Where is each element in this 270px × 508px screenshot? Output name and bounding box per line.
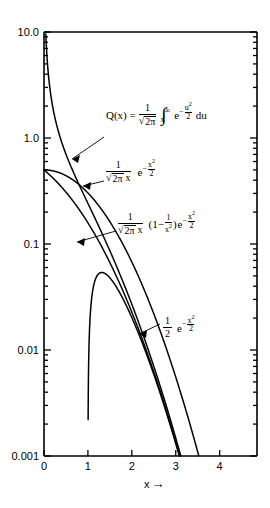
f4-exponent-minus: −: [182, 319, 187, 328]
x-tick-label: 3: [173, 460, 179, 472]
q-exponent: − u2 2: [179, 101, 192, 121]
f3-exponent-num-sup: 2: [192, 210, 195, 216]
q-fraction-numerator: 1: [142, 103, 153, 113]
integral-lower-limit: x: [161, 115, 171, 124]
x-tick-label: 1: [85, 460, 91, 472]
leader-q-definition: [72, 137, 104, 159]
q-differential: du: [196, 109, 207, 121]
f3-exponent-fraction: x2 2: [188, 210, 195, 230]
arrowhead-lower-bound: [77, 238, 85, 246]
chart-figure: 10.01.00.10.010.001 01234 Q(x) = 1 √ 2π: [0, 0, 270, 508]
axes-frame: [44, 32, 257, 456]
f3-exponent-denominator: 2: [190, 222, 194, 230]
y-tick-label: 1.0: [24, 132, 39, 144]
q-fraction: 1 √ 2π: [139, 103, 157, 127]
f2-sqrt-body: 2π: [112, 173, 124, 184]
q-lhs: Q(x) =: [106, 109, 136, 121]
x-tick-label: 4: [217, 460, 223, 472]
f4-fraction-denominator: 2: [165, 329, 170, 339]
y-tick-label: 10.0: [18, 26, 39, 38]
curve-2: [88, 272, 179, 455]
f3-inner-fraction: 1 x2: [165, 214, 172, 234]
f3-inner-numerator: 1: [166, 214, 170, 222]
f4-exponent-numerator: x2: [187, 314, 194, 325]
f3-fraction-denominator: √ 2π x: [118, 225, 143, 236]
f3-inner-den-sup: 2: [169, 223, 172, 229]
f3-exponent-minus: −: [183, 216, 188, 225]
q-exponent-numerator: u2: [185, 101, 192, 112]
y-tick-label: 0.1: [24, 238, 39, 250]
f2-exponent: − x2 2: [142, 158, 155, 178]
integral-upper-limit: ∞: [165, 106, 171, 115]
f4-fraction-numerator: 1: [163, 316, 172, 326]
q-fraction-denominator: √ 2π: [139, 116, 157, 127]
log-plot-svg: 10.01.00.10.010.001 01234: [0, 0, 270, 508]
annotation-q-definition: Q(x) = 1 √ 2π ∫ ∞ x e − u2 2: [106, 103, 207, 127]
x-axis-label-text: x: [144, 478, 150, 490]
q-exponent-num-sup: 2: [189, 101, 192, 107]
y-tick-label: 0.001: [11, 450, 39, 462]
f3-fraction: 1 √ 2π x: [118, 212, 143, 236]
f2-fraction: 1 √ 2π x: [106, 160, 131, 184]
integral-limits: ∞ x: [165, 106, 171, 124]
f3-fraction-numerator: 1: [122, 212, 139, 222]
f3-denominator-x: x: [138, 225, 143, 235]
q-sqrt-body: 2π: [144, 116, 156, 127]
f2-exponent-numerator: x2: [148, 158, 155, 169]
q-exponent-minus: −: [179, 107, 184, 116]
data-curves: [44, 34, 199, 456]
f3-paren-close: ): [173, 218, 177, 230]
q-exponent-fraction: u2 2: [185, 101, 192, 121]
annotation-lower-bound: 1 √ 2π x (1− 1 x2 ) e − x2 2: [118, 212, 195, 236]
q-integral-group: ∫ ∞ x: [161, 106, 170, 124]
annotation-upper-bound: 1 √ 2π x e − x2 2: [106, 160, 155, 184]
f2-exponent-fraction: x2 2: [148, 158, 155, 178]
tick-marks: [44, 32, 257, 456]
y-tick-label: 0.01: [18, 344, 39, 356]
x-axis-arrow-icon: →: [152, 477, 165, 490]
f3-inner-denominator: x2: [165, 223, 172, 234]
annotation-chernoff-bound: 1 2 e − x2 2: [163, 316, 194, 339]
f2-denominator-x: x: [126, 173, 131, 183]
f4-exponent-num-sup: 2: [191, 314, 194, 320]
y-tick-labels: 10.01.00.10.010.001: [11, 26, 39, 462]
x-tick-label: 0: [41, 460, 47, 472]
f4-fraction: 1 2: [163, 316, 172, 339]
f3-paren-open: (1−: [149, 218, 164, 230]
x-tick-label: 2: [129, 460, 135, 472]
q-exponent-denominator: 2: [186, 113, 190, 121]
f2-exponent-denominator: 2: [149, 170, 153, 178]
f3-sqrt-body: 2π: [124, 225, 136, 236]
f4-exponent-denominator: 2: [189, 325, 193, 333]
x-axis-label: x →: [144, 477, 165, 490]
f2-fraction-numerator: 1: [110, 160, 127, 170]
x-tick-labels: 01234: [41, 460, 223, 472]
f3-exponent-numerator: x2: [188, 210, 195, 221]
f4-exponent-fraction: x2 2: [187, 314, 194, 334]
f4-exponent: − x2 2: [182, 314, 195, 334]
f2-exponent-minus: −: [142, 164, 147, 173]
f2-exponent-num-sup: 2: [152, 158, 155, 164]
f3-exponent: − x2 2: [183, 210, 196, 230]
f2-fraction-denominator: √ 2π x: [106, 173, 131, 184]
